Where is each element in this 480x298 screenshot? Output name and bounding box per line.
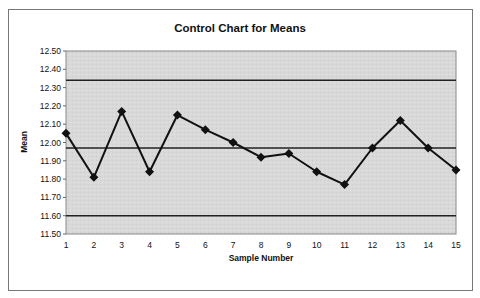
y-tick-label: 11.50	[40, 229, 61, 239]
x-tick-label: 2	[91, 240, 96, 250]
x-tick-label: 12	[368, 240, 378, 250]
y-tick-label: 11.70	[40, 192, 61, 202]
x-tick-label: 15	[451, 240, 461, 250]
x-axis-ticks: 123456789101112131415	[64, 240, 461, 250]
y-tick-label: 12.50	[40, 46, 62, 56]
y-tick-label: 12.10	[40, 119, 62, 129]
y-tick-label: 12.20	[40, 101, 62, 111]
x-tick-label: 10	[312, 240, 322, 250]
x-tick-label: 14	[423, 240, 433, 250]
y-tick-label: 12.00	[40, 138, 62, 148]
x-tick-label: 4	[147, 240, 152, 250]
x-tick-label: 3	[119, 240, 124, 250]
x-tick-label: 13	[396, 240, 406, 250]
chart-title: Control Chart for Means	[174, 22, 306, 34]
x-tick-label: 8	[259, 240, 264, 250]
y-tick-label: 11.90	[40, 156, 61, 166]
y-tick-label: 11.60	[40, 211, 61, 221]
y-tick-label: 11.80	[40, 174, 61, 184]
x-tick-label: 11	[340, 240, 349, 250]
x-tick-label: 1	[64, 240, 69, 250]
x-tick-label: 6	[203, 240, 208, 250]
x-tick-label: 5	[175, 240, 180, 250]
plot-area	[66, 51, 456, 234]
control-chart: Control Chart for Means 11.5011.6011.701…	[0, 0, 480, 298]
x-tick-label: 9	[286, 240, 291, 250]
chart-canvas: Control Chart for Means 11.5011.6011.701…	[0, 0, 480, 298]
y-axis-label: Mean	[19, 131, 29, 153]
x-tick-label: 7	[231, 240, 236, 250]
y-tick-label: 12.30	[40, 83, 62, 93]
y-tick-label: 12.40	[40, 64, 62, 74]
x-axis-label: Sample Number	[229, 253, 294, 263]
